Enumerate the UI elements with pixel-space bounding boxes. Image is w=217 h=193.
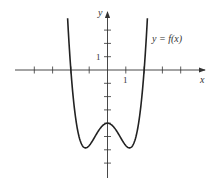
function-graph: x y y = f(x) 1 1: [0, 0, 217, 193]
y-axis-label: y: [97, 7, 103, 18]
y-tick-label-1: 1: [96, 52, 101, 62]
x-axis-label: x: [199, 74, 205, 85]
x-tick-label-1: 1: [123, 75, 128, 85]
curve-label: y = f(x): [151, 33, 183, 45]
